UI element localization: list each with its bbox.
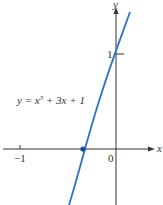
x-tick-label-0: 0 bbox=[108, 152, 114, 164]
root-point bbox=[80, 146, 85, 151]
x-axis-label: x bbox=[156, 142, 162, 154]
y-tick-label-1: 1 bbox=[107, 48, 113, 60]
cubic-graph: −1 0 1 x y y = x3 + 3x + 1 bbox=[0, 0, 163, 205]
x-axis-arrow-icon bbox=[148, 147, 155, 152]
x-tick-label-neg1: −1 bbox=[14, 152, 26, 164]
equation-label: y = x3 + 3x + 1 bbox=[16, 94, 85, 106]
curve bbox=[69, 12, 130, 205]
y-axis-label: y bbox=[112, 0, 118, 10]
